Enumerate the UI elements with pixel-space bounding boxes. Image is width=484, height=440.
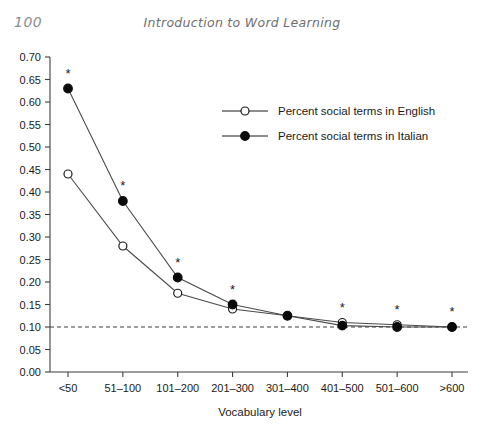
y-tick-label: 0.20 xyxy=(20,276,41,288)
series-markers xyxy=(64,84,457,331)
data-point xyxy=(173,273,182,282)
line-chart: 0.000.050.100.150.200.250.300.350.400.45… xyxy=(0,40,484,440)
data-point xyxy=(228,300,237,309)
y-tick-label: 0.55 xyxy=(20,119,41,131)
y-tick-label: 0.45 xyxy=(20,164,41,176)
x-tick-label: 201–300 xyxy=(211,382,254,394)
data-point xyxy=(174,289,182,297)
legend-label: Percent social terms in Italian xyxy=(278,130,428,142)
y-tick-label: 0.05 xyxy=(20,344,41,356)
x-axis-ticks: <5051–100101–200201–300301–400401–500501… xyxy=(59,372,465,394)
legend-label: Percent social terms in English xyxy=(278,105,435,117)
legend-marker xyxy=(241,107,249,115)
x-tick-label: 301–400 xyxy=(266,382,309,394)
y-tick-label: 0.15 xyxy=(20,299,41,311)
y-tick-label: 0.50 xyxy=(20,141,41,153)
significance-star: * xyxy=(65,66,70,81)
x-tick-label: 101–200 xyxy=(156,382,199,394)
series-line-2 xyxy=(68,89,452,328)
significance-star: * xyxy=(120,178,125,193)
data-point xyxy=(448,323,457,332)
significance-stars: ******* xyxy=(65,66,454,320)
y-tick-label: 0.70 xyxy=(20,51,41,63)
x-axis-title: Vocabulary level xyxy=(218,406,302,418)
y-tick-label: 0.60 xyxy=(20,96,41,108)
x-tick-label: 51–100 xyxy=(104,382,141,394)
significance-star: * xyxy=(395,302,400,317)
y-tick-label: 0.30 xyxy=(20,231,41,243)
y-tick-label: 0.35 xyxy=(20,209,41,221)
y-axis-ticks: 0.000.050.100.150.200.250.300.350.400.45… xyxy=(20,51,50,378)
significance-star: * xyxy=(230,282,235,297)
running-head: 100 Introduction to Word Learning xyxy=(0,14,484,36)
y-tick-label: 0.65 xyxy=(20,74,41,86)
x-tick-label: <50 xyxy=(59,382,78,394)
chart-legend: Percent social terms in EnglishPercent s… xyxy=(222,105,435,142)
x-tick-label: 501–600 xyxy=(376,382,419,394)
significance-star: * xyxy=(449,304,454,319)
series-lines xyxy=(68,89,452,328)
data-point xyxy=(64,84,73,93)
x-tick-label: 401–500 xyxy=(321,382,364,394)
y-tick-label: 0.00 xyxy=(20,366,41,378)
data-point xyxy=(393,323,402,332)
figure-container: 0.000.050.100.150.200.250.300.350.400.45… xyxy=(0,40,484,440)
y-tick-label: 0.40 xyxy=(20,186,41,198)
y-tick-label: 0.25 xyxy=(20,254,41,266)
data-point xyxy=(64,170,72,178)
running-title: Introduction to Word Learning xyxy=(0,15,484,30)
y-tick-label: 0.10 xyxy=(20,321,41,333)
data-point xyxy=(283,311,292,320)
data-point xyxy=(338,321,347,330)
significance-star: * xyxy=(340,300,345,315)
significance-star: * xyxy=(175,255,180,270)
legend-marker xyxy=(241,132,250,141)
data-point xyxy=(119,242,127,250)
x-tick-label: >600 xyxy=(440,382,465,394)
data-point xyxy=(119,197,128,206)
